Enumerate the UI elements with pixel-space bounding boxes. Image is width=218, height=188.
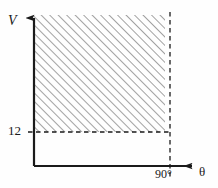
diagram-canvas [0, 0, 218, 188]
y-tick-label-12: 12 [8, 124, 21, 137]
y-axis-label: V [8, 14, 17, 28]
hatched-region-fill [34, 15, 165, 132]
region-diagram: V θ 12 90° [0, 0, 218, 188]
x-tick-label-90: 90° [155, 168, 172, 180]
x-axis-label: θ [199, 165, 205, 178]
